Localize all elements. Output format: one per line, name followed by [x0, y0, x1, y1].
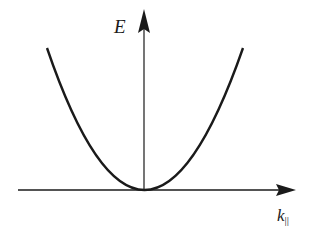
dispersion-diagram: E k||	[0, 0, 313, 233]
k-axis-label: k||	[277, 206, 289, 226]
k-axis-label-subscript: ||	[285, 214, 289, 226]
dispersion-parabola	[47, 48, 243, 190]
energy-axis-label: E	[113, 16, 126, 37]
k-axis-arrowhead	[276, 184, 296, 196]
